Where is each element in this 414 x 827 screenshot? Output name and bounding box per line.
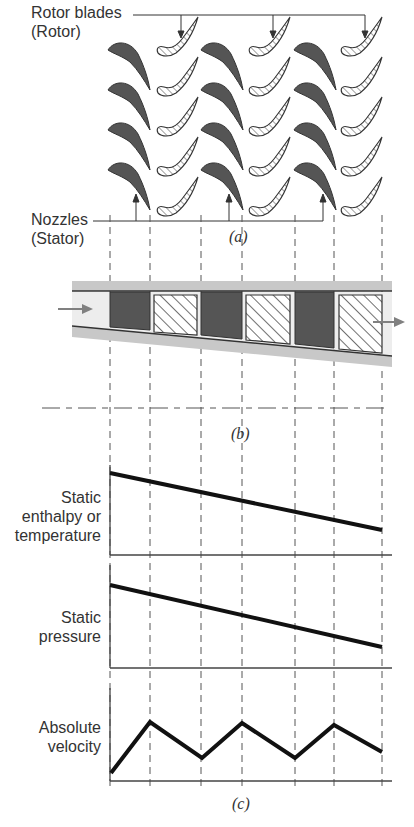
enthalpy-label-line1: Static [0, 488, 101, 507]
caption-a: (a) [229, 228, 248, 246]
pressure-label-line2: pressure [0, 627, 101, 646]
enthalpy-label-line3: temperature [0, 526, 101, 545]
rotor-label-line2: (Rotor) [31, 22, 122, 41]
blade-cascade [108, 17, 382, 216]
stator-label-line1: Nozzles [31, 210, 88, 229]
velocity-label-line2: velocity [0, 737, 101, 756]
meridional-section [58, 281, 405, 367]
plot-enthalpy [110, 465, 392, 555]
enthalpy-label-line2: enthalpy or [0, 507, 101, 526]
enthalpy-label: Static enthalpy or temperature [0, 488, 101, 545]
caption-b: (b) [231, 425, 250, 443]
turbine-diagram [0, 0, 414, 827]
rotor-label: Rotor blades (Rotor) [31, 3, 122, 41]
pressure-label: Static pressure [0, 608, 101, 646]
pressure-label-line1: Static [0, 608, 101, 627]
velocity-label-line1: Absolute [0, 718, 101, 737]
stator-label: Nozzles (Stator) [31, 210, 88, 248]
velocity-label: Absolute velocity [0, 718, 101, 756]
rotor-leader-arrows [133, 15, 368, 38]
plot-velocity [110, 688, 392, 781]
rotor-label-line1: Rotor blades [31, 3, 122, 22]
stator-leader-arrows [93, 194, 326, 221]
stator-label-line2: (Stator) [31, 229, 88, 248]
caption-c: (c) [232, 795, 250, 813]
plot-pressure [110, 565, 392, 668]
